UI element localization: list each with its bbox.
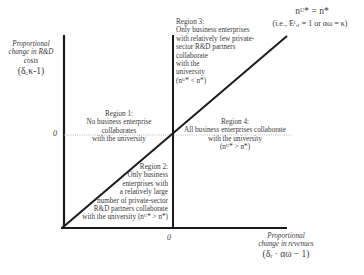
y-axis-formula: (δ꜀κ-1): [2, 66, 60, 77]
region-2-line: a relatively large: [66, 188, 168, 196]
x-axis-label-line: Proportional: [230, 232, 342, 240]
x-axis-label: Proportional change in revenues: [230, 232, 342, 249]
region-2-line: number of private-sector: [66, 197, 168, 205]
region-1-line: with the university: [72, 135, 166, 143]
y-axis-label-line: change in R&D: [2, 48, 60, 56]
region-3-line: with relatively few private-: [176, 35, 254, 43]
region-1-line: Region 1:: [72, 110, 166, 118]
region-3-line: Only business enterprises: [176, 26, 254, 34]
boundary-condition: (i.e., Eᶜ,ᵣ = 1 or αω = κ): [256, 19, 364, 28]
region-3-line: with the: [176, 60, 254, 68]
region-4-label: Region 4: All business enterprises colla…: [170, 118, 300, 152]
x-axis-formula: (δᵣ · αω − 1): [230, 249, 342, 260]
region-3-line: university: [176, 68, 254, 76]
region-3-label: Region 3: Only business enterprises with…: [176, 18, 254, 85]
region-4-line: All business enterprises collaborate: [170, 126, 300, 134]
region-2-label: Region 2: Only business enterprises with…: [66, 163, 168, 222]
region-4-line: with the university: [170, 135, 300, 143]
region-4-line: (nᵁ* > n*): [170, 143, 300, 151]
y-axis-label-line: Proportional: [2, 40, 60, 48]
region-2-line: Only business: [66, 171, 168, 179]
region-1-line: No business enterprise: [72, 118, 166, 126]
diagram: Proportional change in R&D costs (δ꜀κ-1)…: [0, 0, 364, 275]
region-2-line: with the university (nᵁ* > n*): [66, 213, 168, 221]
y-zero-label: 0: [53, 130, 57, 138]
region-2-line: enterprises with: [66, 180, 168, 188]
region-3-line: (nᵁ* < n*): [176, 77, 254, 85]
region-1-label: Region 1: No business enterprise collabo…: [72, 110, 166, 144]
boundary-equation: nᵁ* = n*: [262, 6, 362, 17]
y-axis-label: Proportional change in R&D costs: [2, 40, 60, 65]
region-2-line: R&D partners collaborate: [66, 205, 168, 213]
region-2-line: Region 2:: [66, 163, 168, 171]
region-4-line: Region 4:: [170, 118, 300, 126]
region-3-line: Region 3:: [176, 18, 254, 26]
region-3-line: collaborate: [176, 52, 254, 60]
region-1-line: collaborates: [72, 127, 166, 135]
region-3-line: sector R&D partners: [176, 43, 254, 51]
x-axis-label-line: change in revenues: [230, 240, 342, 248]
x-zero-label: 0: [167, 234, 171, 242]
y-axis-label-line: costs: [2, 57, 60, 65]
